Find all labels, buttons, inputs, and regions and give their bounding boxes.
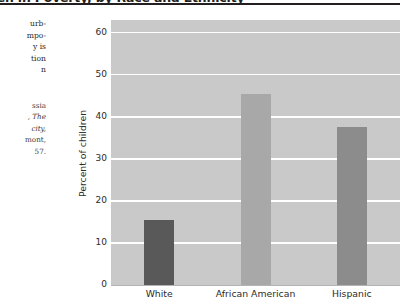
y-axis-tick-label: 50 [61, 69, 107, 79]
y-axis-tick-label: 0 [61, 279, 107, 289]
y-axis-tick-label: 20 [61, 195, 107, 205]
x-axis-tick-label: Hispanic [304, 288, 400, 299]
bars-layer [111, 20, 400, 285]
plot-area [111, 20, 400, 285]
bar-african-american [241, 94, 271, 285]
bar-chart: Percent of children 0102030405060 WhiteA… [0, 0, 400, 302]
bar-white [144, 220, 174, 285]
figure-page: dren in Poverty, by Race and Ethnicity u… [0, 0, 400, 302]
x-axis-tick-label: African American [207, 288, 303, 299]
y-axis-tick-label: 10 [61, 237, 107, 247]
y-axis-tick-label: 40 [61, 111, 107, 121]
y-axis-ticks: 0102030405060 [55, 20, 107, 285]
x-axis-labels: WhiteAfrican AmericanHispanic [111, 288, 400, 302]
bar-hispanic [337, 127, 367, 285]
y-axis-tick-label: 60 [61, 27, 107, 37]
x-axis-tick-label: White [111, 288, 207, 299]
x-axis-line [111, 285, 400, 286]
y-axis-tick-label: 30 [61, 153, 107, 163]
